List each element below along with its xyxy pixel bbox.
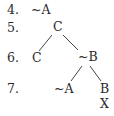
node-b-line7: B: [100, 83, 109, 95]
line-number-5: 5.: [7, 22, 19, 34]
node-not-b-line6: ~B: [78, 51, 98, 63]
closed-branch-mark: X: [100, 98, 109, 110]
edge-notb-to-nota: [71, 66, 82, 81]
edge-c-to-notb: [63, 35, 78, 50]
line-number-6: 6.: [7, 52, 19, 64]
node-not-a-line7: ~A: [54, 83, 74, 95]
edge-c-to-c: [39, 35, 52, 51]
node-c-line6: C: [32, 52, 42, 64]
node-not-a-line4: ~A: [31, 4, 51, 16]
line-number-7: 7.: [7, 83, 19, 95]
node-c-line5: C: [53, 21, 63, 33]
line-number-4: 4.: [7, 4, 19, 16]
edge-notb-to-b: [90, 66, 101, 81]
